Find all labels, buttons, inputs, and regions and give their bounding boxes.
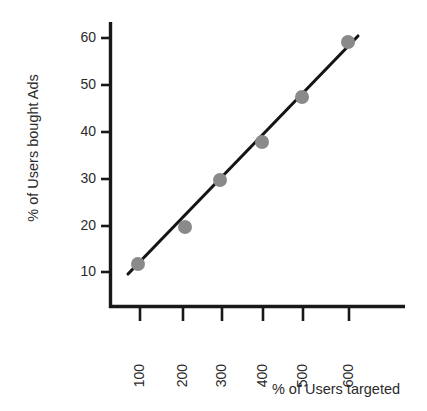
y-axis-title: % of Users bought Ads xyxy=(25,74,41,222)
scatter-plot: 60 50 40 30 20 10 100 200 300 400 500 60… xyxy=(0,0,427,411)
y-tick-label: 60 xyxy=(80,29,96,45)
y-tick-label: 50 xyxy=(80,76,96,92)
x-axis-ticks xyxy=(140,308,349,321)
y-axis-ticks xyxy=(101,38,110,272)
x-axis-title: % of Users targeted xyxy=(272,381,400,397)
y-tick-label: 40 xyxy=(80,123,96,139)
y-tick-label: 10 xyxy=(80,263,96,279)
x-tick-label: 400 xyxy=(254,364,270,388)
y-tick-label: 30 xyxy=(80,170,96,186)
x-tick-label: 200 xyxy=(174,364,190,388)
data-point[interactable] xyxy=(213,173,227,187)
y-axis-tick-labels: 60 50 40 30 20 10 xyxy=(80,29,96,279)
data-point[interactable] xyxy=(295,90,309,104)
x-tick-label: 300 xyxy=(213,364,229,388)
data-point[interactable] xyxy=(178,220,192,234)
data-point[interactable] xyxy=(255,135,269,149)
data-point[interactable] xyxy=(131,257,145,271)
x-tick-label: 100 xyxy=(131,364,147,388)
y-tick-label: 20 xyxy=(80,217,96,233)
data-point[interactable] xyxy=(341,35,355,49)
chart-container: 60 50 40 30 20 10 100 200 300 400 500 60… xyxy=(0,0,427,411)
trend-line xyxy=(128,36,358,274)
